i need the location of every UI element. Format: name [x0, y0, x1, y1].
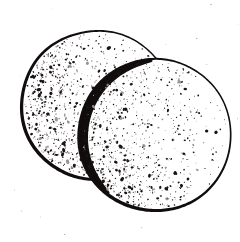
- front-disc: [77, 58, 231, 212]
- disc-illustration: [0, 0, 240, 242]
- artboard: Black and white stippled drawing of two …: [0, 0, 240, 242]
